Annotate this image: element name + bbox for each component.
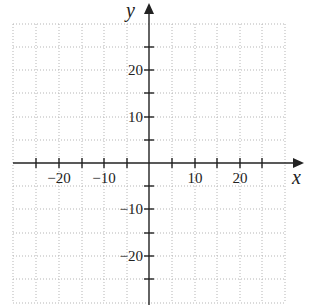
x-tick-label: 10 — [188, 170, 203, 186]
coordinate-plane: −20 −10 10 20 20 10 −10 −20 y x — [0, 0, 313, 307]
y-axis — [144, 12, 154, 305]
y-tick-label: 20 — [128, 62, 143, 78]
x-tick-label: −10 — [92, 170, 115, 186]
y-axis-arrow-icon — [144, 3, 154, 14]
x-axis-label: x — [291, 166, 301, 188]
x-axis — [13, 158, 296, 168]
x-tick-label: 20 — [233, 170, 248, 186]
y-tick-label: −20 — [120, 248, 143, 264]
y-axis-label: y — [124, 0, 135, 22]
y-tick-label: 10 — [128, 109, 143, 125]
x-tick-label: −20 — [47, 170, 70, 186]
y-tick-label: −10 — [120, 201, 143, 217]
